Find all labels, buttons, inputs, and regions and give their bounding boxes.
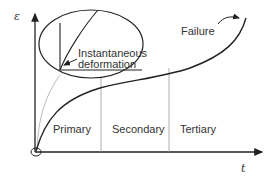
x-axis-label: t [241, 162, 245, 175]
creep-curve-diagram: ε t Instantaneous deformation Failure Pr… [0, 0, 274, 179]
diagram-canvas [0, 0, 274, 179]
y-axis-label: ε [14, 10, 20, 23]
inset-label-line2: deformation [78, 58, 136, 70]
stage-tertiary-label: Tertiary [180, 123, 216, 135]
stage-secondary-label: Secondary [112, 123, 165, 135]
stage-primary-label: Primary [53, 123, 91, 135]
failure-arrow [218, 17, 239, 24]
failure-label: Failure [181, 25, 215, 37]
inset-pointer-arrow [64, 59, 77, 65]
